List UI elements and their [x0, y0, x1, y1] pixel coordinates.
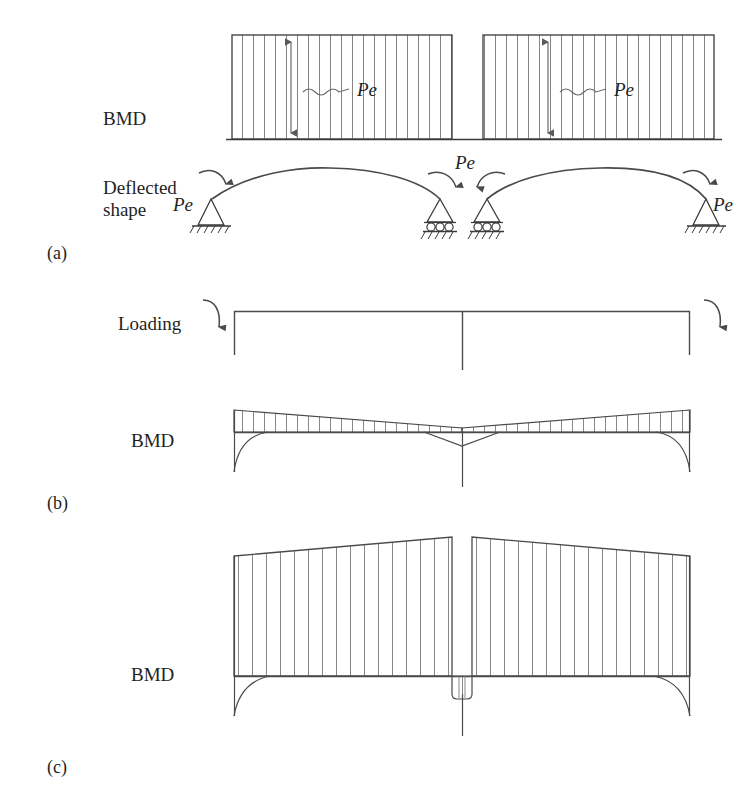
panel-c-tag: (c)	[47, 757, 67, 778]
panel-c-left-fillet	[234, 676, 270, 716]
panel-a-bmd-diagram	[226, 35, 722, 140]
panel-a-deflected-shape-label: Deflected shape	[103, 177, 177, 222]
pe-label-right-support: Pe	[713, 194, 733, 216]
support-interior-left-roller	[421, 199, 457, 239]
panel-c-right-trapezoid	[472, 537, 690, 676]
deflected-right-span-curve	[487, 168, 706, 199]
pe-label-left-block: Pe	[357, 79, 377, 101]
panel-a-tag: (a)	[47, 243, 67, 264]
panel-b-bmd-label: BMD	[131, 430, 174, 452]
panel-a-bmd-label: BMD	[103, 108, 146, 130]
panel-b-bmd-diagram	[234, 410, 690, 487]
panel-a-right-moment-block	[483, 35, 714, 139]
moment-arrow-left-pe	[199, 170, 226, 184]
panel-b-loading-diagram	[203, 300, 720, 370]
panel-b-left-wedge	[234, 410, 462, 432]
deflected-left-span-curve	[212, 168, 440, 199]
panel-b-left-fillet	[234, 432, 268, 472]
panel-b-loading-label: Loading	[118, 313, 181, 335]
panel-a-left-moment-block	[232, 35, 452, 139]
pe-label-left-support: Pe	[173, 194, 193, 216]
panel-a-deflected-shape-diagram	[190, 168, 726, 239]
panel-b-right-fillet	[656, 432, 690, 472]
panel-b-tag: (b)	[47, 493, 68, 514]
panel-c-bmd-label: BMD	[131, 664, 174, 686]
panel-c-bmd-diagram	[234, 537, 690, 736]
deflected-label-line1: Deflected	[103, 177, 177, 199]
pe-label-right-block: Pe	[614, 79, 634, 101]
deflected-label-line2: shape	[103, 199, 177, 221]
pe-label-center: Pe	[455, 152, 475, 174]
moment-arrow-center-left-pe	[428, 172, 456, 187]
support-interior-right-roller	[468, 199, 504, 239]
panel-c-left-trapezoid	[234, 537, 452, 676]
loading-left-end-moment-arrow	[203, 300, 219, 327]
support-left-pin	[190, 199, 231, 233]
moment-arrow-center-right-pe	[477, 172, 505, 187]
panel-b-right-wedge	[462, 410, 690, 432]
figure-root: BMD Deflected shape (a) Pe Pe Pe Pe Pe L…	[0, 0, 751, 802]
panel-c-right-fillet	[654, 676, 690, 716]
moment-arrow-right-pe	[683, 170, 710, 184]
loading-right-end-moment-arrow	[704, 300, 720, 327]
